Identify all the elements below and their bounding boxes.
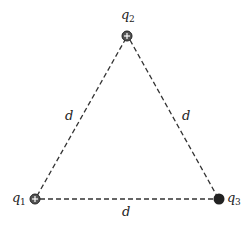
side-label-bottom: d <box>122 204 130 219</box>
charge-q2: q 2 <box>121 7 135 41</box>
charge-subscript-q1: 1 <box>20 197 26 207</box>
charge-subscript-q2: 2 <box>129 14 135 24</box>
charge-q1: q 1 <box>12 190 40 207</box>
equilateral-triangle-charge-diagram: q 2 q 1 q 3 d d d <box>0 0 252 226</box>
side-q1-q2 <box>37 40 125 196</box>
side-label-left: d <box>65 108 73 123</box>
side-q2-q3 <box>130 40 217 196</box>
charge-subscript-q3: 3 <box>235 197 241 207</box>
charge-q3: q 3 <box>214 190 242 207</box>
negative-charge-icon <box>214 194 225 205</box>
side-label-right: d <box>182 108 190 123</box>
